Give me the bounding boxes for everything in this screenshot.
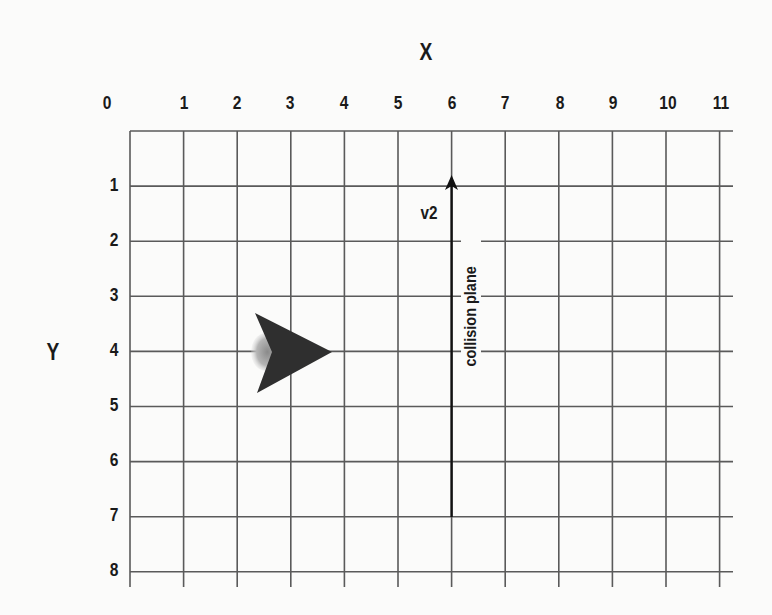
v2-label: v2 (421, 203, 438, 224)
x-tick-4: 4 (332, 92, 357, 114)
x-tick-2: 2 (225, 92, 250, 114)
x-tick-5: 5 (386, 92, 411, 114)
x-tick-3: 3 (278, 92, 303, 114)
collision-plane-label: collision plane (461, 218, 481, 370)
x-axis-title: X (420, 38, 433, 66)
y-axis-title: Y (47, 338, 60, 366)
x-tick-0: 0 (95, 92, 120, 114)
x-tick-11: 11 (709, 92, 734, 114)
y-tick-8: 8 (105, 559, 123, 581)
y-tick-4: 4 (105, 339, 123, 361)
x-tick-7: 7 (493, 92, 518, 114)
x-tick-6: 6 (440, 92, 465, 114)
grid-lines (130, 131, 733, 587)
y-tick-7: 7 (105, 504, 123, 526)
y-tick-1: 1 (105, 174, 123, 196)
x-tick-10: 10 (656, 92, 681, 114)
x-tick-8: 8 (548, 92, 573, 114)
v2-vector-arrow (445, 175, 458, 517)
y-tick-3: 3 (105, 284, 123, 306)
y-tick-6: 6 (105, 449, 123, 471)
x-tick-1: 1 (172, 92, 197, 114)
y-tick-5: 5 (105, 394, 123, 416)
y-tick-2: 2 (105, 229, 123, 251)
x-tick-9: 9 (601, 92, 626, 114)
